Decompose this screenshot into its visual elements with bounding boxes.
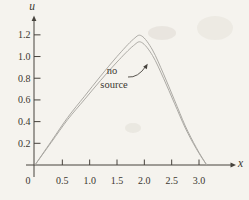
x-tick-label: 2.5 — [165, 175, 178, 186]
y-axis-title: u — [26, 1, 38, 13]
annotation-text-line2: source — [92, 80, 136, 91]
origin-tick-label: 0 — [22, 176, 34, 186]
annotation-text-line1: no — [97, 66, 127, 77]
plot-canvas: 0.51.01.52.02.53.0 0.20.40.60.81.01.2 — [0, 0, 249, 200]
y-tick-label: 0.6 — [18, 94, 31, 105]
curve-lower — [35, 42, 207, 165]
scan-smudge — [125, 123, 141, 133]
x-tick-labels: 0.51.01.52.02.53.0 — [56, 175, 205, 186]
y-tick-marks — [34, 35, 41, 143]
y-axis-arrow-icon — [32, 16, 37, 22]
x-tick-label: 3.0 — [193, 175, 206, 186]
curve-upper — [35, 35, 207, 165]
x-tick-marks — [62, 160, 199, 166]
y-tick-label: 0.4 — [18, 116, 31, 127]
y-tick-labels: 0.20.40.60.81.01.2 — [18, 29, 31, 148]
annotation-arrow — [128, 66, 146, 77]
x-tick-label: 1.0 — [83, 175, 96, 186]
x-tick-label: 1.5 — [111, 175, 124, 186]
x-axis-title: x — [238, 158, 243, 170]
scan-smudge — [197, 16, 233, 40]
y-tick-label: 1.2 — [18, 29, 31, 40]
x-tick-label: 0.5 — [56, 175, 69, 186]
curve-group — [35, 35, 207, 165]
scan-smudge — [148, 26, 176, 40]
y-tick-label: 1.0 — [18, 51, 31, 62]
y-tick-label: 0.8 — [18, 73, 31, 84]
x-tick-label: 2.0 — [138, 175, 151, 186]
figure: 0.51.01.52.02.53.0 0.20.40.60.81.01.2 u … — [0, 0, 249, 200]
x-axis-arrow-icon — [231, 163, 237, 168]
y-tick-label: 0.2 — [18, 138, 31, 149]
